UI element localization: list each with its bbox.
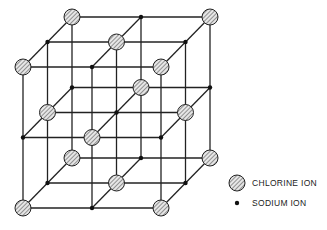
- chlorine-ion: [202, 9, 218, 25]
- chlorine-ion: [40, 105, 56, 121]
- sodium-ion: [139, 15, 143, 19]
- sodium-ion: [114, 110, 118, 114]
- chlorine-ion: [15, 59, 31, 75]
- legend-chlorine-label: CHLORINE ION: [252, 178, 317, 188]
- chlorine-ion: [153, 59, 169, 75]
- sodium-ion: [208, 85, 212, 89]
- chlorine-ion: [133, 80, 149, 96]
- sodium-ion: [183, 181, 187, 185]
- sodium-ion: [21, 135, 25, 139]
- legend-sodium-label: SODIUM ION: [252, 198, 306, 208]
- chlorine-ion: [178, 105, 194, 121]
- chlorine-ion: [64, 150, 80, 166]
- legend: [229, 175, 245, 205]
- legend-chlorine-icon: [229, 175, 245, 191]
- sodium-ion: [90, 65, 94, 69]
- chlorine-ion: [153, 200, 169, 216]
- chlorine-ion: [64, 9, 80, 25]
- nacl-lattice-diagram: [0, 0, 327, 230]
- sodium-ion: [183, 40, 187, 44]
- chlorine-ion: [84, 130, 100, 146]
- chlorine-ion: [109, 34, 125, 50]
- sodium-ion: [70, 85, 74, 89]
- chlorine-ion: [15, 200, 31, 216]
- sodium-ion: [139, 156, 143, 160]
- legend-sodium-icon: [235, 201, 239, 205]
- chlorine-ion: [109, 175, 125, 191]
- chlorine-ion: [202, 150, 218, 166]
- sodium-ion: [159, 135, 163, 139]
- sodium-ion: [45, 40, 49, 44]
- sodium-ion: [90, 206, 94, 210]
- sodium-ion: [45, 181, 49, 185]
